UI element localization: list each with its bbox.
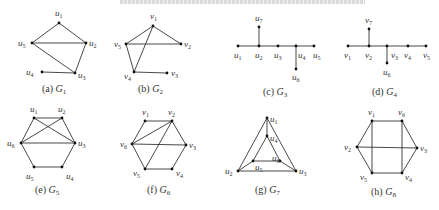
graph-edge (402, 148, 417, 173)
graph-vertex (152, 25, 155, 28)
vertex-label: v1 (150, 11, 157, 22)
graph-vertex (425, 45, 428, 48)
vertex-label: u2 (89, 38, 97, 49)
vertex-label: v3 (391, 50, 398, 61)
graph-vertex (20, 142, 23, 145)
vertex-label: u3 (274, 50, 282, 61)
vertex-label: u1 (30, 104, 38, 115)
graph-vertex (277, 45, 280, 48)
graph-vertex (252, 160, 255, 163)
vertex-label: u6 (7, 138, 15, 149)
graph-figure-canvas: u1u5u2u4u3(a) G1v1v5v2v4v3(b) G2u1u2u3u4… (0, 0, 439, 210)
graph-vertex (166, 72, 169, 75)
graph-vertex (386, 45, 389, 48)
vertex-label: u4 (66, 171, 74, 182)
figure-caption: (g) G7 (255, 184, 280, 197)
graph-vertex (386, 62, 389, 65)
graph-c: u1u2u3u4u5u7u6(c) G3 (234, 13, 321, 99)
graph-d: v1v2v3v4v5v7u6(d) G4 (344, 15, 430, 99)
vertex-label: u2 (255, 50, 263, 61)
graph-vertex (74, 142, 77, 145)
vertex-label: v2 (344, 142, 351, 153)
vertex-label: u5 (26, 171, 34, 182)
graph-vertex (31, 42, 34, 45)
vertex-label: u1 (234, 50, 242, 61)
graph-vertex (144, 120, 147, 123)
graph-f: v1v2v6v3v5v4(f) G6 (120, 107, 196, 197)
graph-vertex (180, 43, 183, 46)
graph-edge (59, 23, 86, 43)
graph-vertex (74, 72, 77, 75)
graph-vertex (295, 45, 298, 48)
graph-vertex (368, 28, 371, 31)
graph-edge (134, 26, 153, 72)
graph-e: u1u2u6u3u5u4(e) G5 (7, 104, 86, 197)
graph-b: v1v5v2v4v3(b) G2 (114, 11, 191, 96)
vertex-label: v2 (184, 39, 191, 50)
graph-vertex (401, 120, 404, 123)
vertex-label: v6 (120, 139, 127, 150)
graph-vertex (401, 172, 404, 175)
vertex-label: v1 (142, 107, 149, 118)
vertex-label: v4 (405, 172, 412, 183)
vertex-label: u2 (225, 166, 233, 177)
graph-vertex (58, 22, 61, 25)
graph-edge (75, 43, 86, 73)
graph-vertex (295, 170, 298, 173)
vertex-label: v2 (168, 107, 175, 118)
vertex-label: v3 (171, 68, 178, 79)
graph-vertex (144, 168, 147, 171)
vertex-label: v2 (365, 50, 372, 61)
vertex-label: u6 (383, 67, 391, 78)
vertex-label: u6 (272, 153, 280, 164)
vertex-label: v5 (114, 39, 121, 50)
graph-edge (357, 121, 372, 147)
graph-vertex (356, 146, 359, 149)
graph-vertex (258, 45, 261, 48)
figure-caption: (d) G4 (372, 86, 397, 99)
vertex-label: u1 (55, 8, 63, 19)
vertex-label: u5 (255, 162, 263, 173)
graph-edge (402, 121, 417, 148)
vertex-label: u4 (298, 50, 306, 61)
vertex-label: v3 (189, 140, 196, 151)
graph-edge (32, 23, 59, 43)
graph-edge (62, 143, 75, 167)
figure-caption: (a) G1 (42, 83, 67, 96)
graph-vertex (33, 117, 36, 120)
graph-vertex (416, 147, 419, 150)
graph-vertex (407, 45, 410, 48)
graph-edge (126, 44, 134, 72)
vertex-label: u3 (78, 70, 86, 81)
graph-vertex (368, 45, 371, 48)
figure-caption: (e) G5 (35, 184, 60, 197)
figure-caption: (c) G3 (263, 86, 288, 99)
vertex-label: v5 (133, 168, 140, 179)
graph-vertex (85, 42, 88, 45)
graph-vertex (266, 135, 269, 138)
graph-edge (153, 26, 181, 44)
graph-edge (42, 72, 75, 73)
graph-vertex (371, 120, 374, 123)
figure-caption: (b) G2 (138, 83, 163, 96)
graph-edge (32, 43, 75, 73)
vertex-label: u7 (255, 13, 263, 24)
vertex-label: u5 (313, 50, 321, 61)
graph-vertex (185, 144, 188, 147)
vertex-label: u1 (270, 114, 278, 125)
vertex-label: v1 (368, 107, 375, 118)
vertex-label: v4 (176, 168, 183, 179)
vertex-label: u4 (26, 67, 34, 78)
vertex-label: u5 (18, 38, 26, 49)
graph-edge (357, 147, 372, 173)
graph-g: u1u4u2u3u5u6(g) G7 (225, 114, 307, 197)
graph-edge (172, 121, 186, 145)
graph-vertex (171, 168, 174, 171)
vertex-label: u6 (292, 72, 300, 83)
graph-vertex (258, 26, 261, 29)
vertex-label: v5 (423, 50, 430, 61)
graph-vertex (313, 45, 316, 48)
vertex-label: u3 (299, 166, 307, 177)
graph-edge (21, 143, 34, 167)
graph-vertex (133, 71, 136, 74)
